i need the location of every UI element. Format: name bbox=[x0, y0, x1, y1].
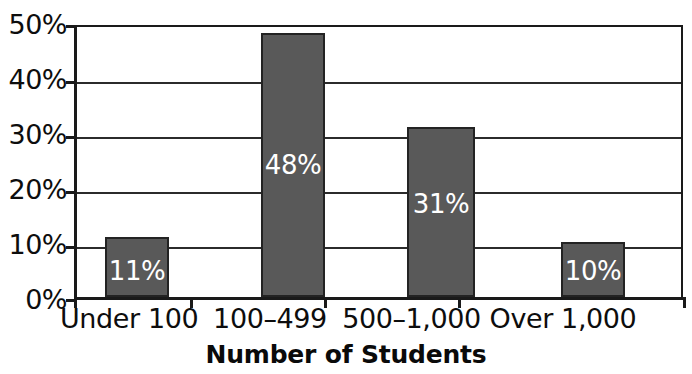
gridline-30 bbox=[77, 137, 681, 139]
bar-value-label-100-499: 48% bbox=[263, 152, 323, 178]
bar-under-100: 11% bbox=[105, 237, 169, 298]
y-axis-tick-label-30: 30% bbox=[0, 121, 67, 148]
bar-100-499: 48% bbox=[261, 33, 325, 297]
y-axis-tick-label-20: 20% bbox=[0, 176, 67, 203]
y-axis-tick-label-0: 0% bbox=[0, 286, 67, 313]
x-axis-title: Number of Students bbox=[0, 341, 692, 369]
x-axis-tick-4 bbox=[683, 297, 686, 308]
gridline-40 bbox=[77, 82, 681, 84]
y-axis-tick-label-40: 40% bbox=[0, 66, 67, 93]
x-axis-label-over-1000: Over 1,000 bbox=[488, 304, 638, 334]
y-axis-tick-label-50: 50% bbox=[0, 11, 67, 38]
y-axis-tick-30 bbox=[66, 136, 77, 139]
plot-area: 11% 48% 31% 10% bbox=[74, 25, 683, 300]
y-axis-tick-50 bbox=[66, 25, 77, 28]
x-axis-label-under-100: Under 100 bbox=[60, 304, 190, 334]
bar-value-label-under-100: 11% bbox=[107, 258, 167, 284]
bar-over-1000: 10% bbox=[561, 242, 625, 297]
x-axis-label-100-499: 100–499 bbox=[205, 304, 335, 334]
y-axis-tick-label-10: 10% bbox=[0, 231, 67, 258]
bar-chart: 50% 40% 30% 20% 10% 0% 11% 48% 31% 10% bbox=[0, 0, 692, 374]
y-axis-tick-20 bbox=[66, 191, 77, 194]
gridline-20 bbox=[77, 192, 681, 194]
y-axis-tick-10 bbox=[66, 246, 77, 249]
bar-500-1000: 31% bbox=[407, 127, 475, 298]
bar-value-label-over-1000: 10% bbox=[563, 258, 623, 284]
bar-value-label-500-1000: 31% bbox=[409, 191, 473, 217]
x-axis-label-500-1000: 500–1,000 bbox=[339, 304, 484, 334]
y-axis-tick-40 bbox=[66, 81, 77, 84]
